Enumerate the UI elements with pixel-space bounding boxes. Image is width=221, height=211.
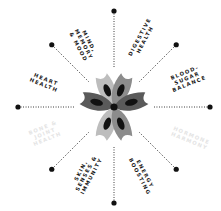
endpoint-dot-east xyxy=(207,104,212,109)
endpoint-dot-south xyxy=(111,200,116,205)
flower-center-dot xyxy=(110,103,117,110)
endpoint-dot-north-west xyxy=(49,42,54,47)
endpoint-dot-south-east xyxy=(174,167,179,172)
endpoint-dot-west xyxy=(15,104,20,109)
dotted-line-south-east xyxy=(139,132,176,169)
wellness-diagram: MIND, MEMORY & MOOD DIGESTIVE HEALTH BLO… xyxy=(0,0,221,211)
endpoint-dot-north xyxy=(111,8,116,13)
endpoint-dot-north-east xyxy=(174,42,179,47)
endpoint-dot-south-west xyxy=(49,167,54,172)
diagram-graphic xyxy=(0,0,221,211)
